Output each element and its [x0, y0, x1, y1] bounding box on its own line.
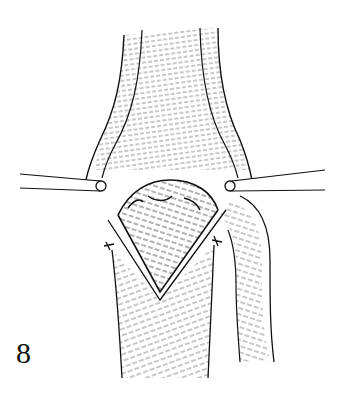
- right-retractor: [225, 170, 325, 191]
- figure-number: 8: [16, 338, 31, 368]
- surgical-illustration: [0, 0, 345, 402]
- upper-vessel: [86, 28, 252, 180]
- left-retractor: [20, 174, 106, 191]
- branch-vessel-right: [220, 196, 274, 362]
